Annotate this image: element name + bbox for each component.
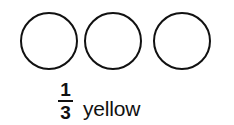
fraction-one-third: 1 3 [58,80,73,123]
shapes-row [0,0,234,80]
circle-outline-icon[interactable] [153,12,211,70]
fraction-numerator: 1 [59,80,72,99]
circle-outline-icon[interactable] [84,12,142,70]
color-word-label: yellow [83,98,140,119]
circle-outline-icon[interactable] [20,12,78,70]
caption: 1 3 yellow [58,80,140,122]
fraction-denominator: 3 [59,103,72,122]
worksheet-item: 1 3 yellow [0,0,234,125]
